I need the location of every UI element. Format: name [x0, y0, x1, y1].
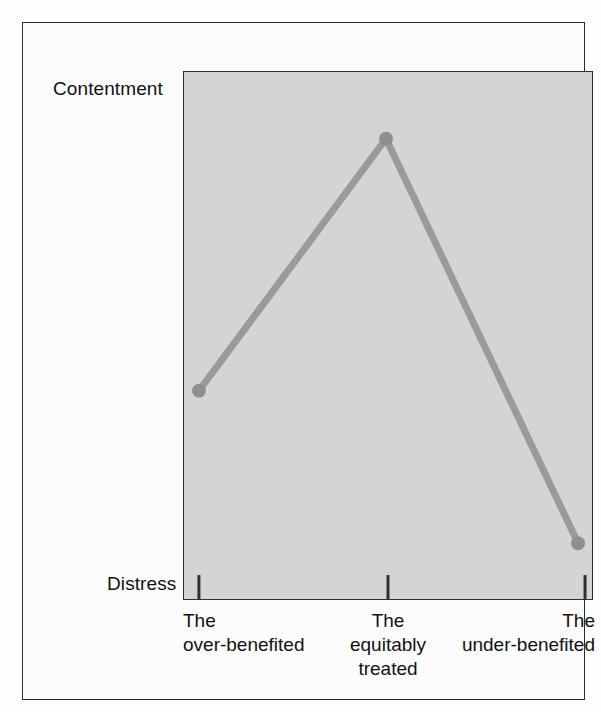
- y-axis-top-label: Contentment: [53, 78, 163, 100]
- figure-root: Contentment Distress The over-benefited …: [0, 0, 601, 712]
- x-axis-label-over-benefited: The over-benefited: [183, 609, 304, 657]
- figure-border-frame: Contentment Distress The over-benefited …: [22, 22, 585, 700]
- data-series-line: [199, 139, 578, 543]
- x-axis-label-equitably-treated: The equitably treated: [324, 609, 452, 681]
- line-chart-svg: [184, 72, 592, 599]
- data-point-over-benefited: [192, 384, 206, 398]
- data-point-under-benefited: [571, 536, 585, 550]
- x-axis-label-under-benefited: The under-benefited: [462, 609, 595, 657]
- data-point-equitably-treated: [379, 132, 393, 146]
- plot-area: [183, 71, 593, 600]
- y-axis-bottom-label: Distress: [107, 573, 176, 595]
- x-axis-category-labels: The over-benefited The equitably treated…: [183, 609, 595, 689]
